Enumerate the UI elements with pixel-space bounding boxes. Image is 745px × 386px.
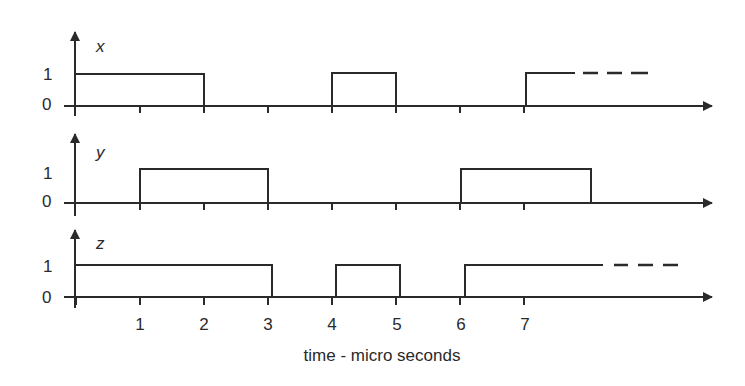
time-tick-labels: 1 2 3 4 5 6 7: [135, 315, 529, 334]
level-label-low: 0: [42, 288, 51, 307]
y-axis-ticks: [140, 203, 524, 210]
level-label-high: 1: [43, 164, 52, 183]
tick-label-3: 3: [263, 315, 272, 334]
tick-label-5: 5: [392, 315, 401, 334]
panel-y: y 1 0: [42, 134, 712, 216]
timing-diagram-svg: x 1 0 y 1 0: [0, 0, 745, 386]
x-axis-title: time - micro seconds: [304, 346, 461, 365]
waveform-z: [76, 265, 603, 297]
level-label-low: 0: [42, 95, 51, 114]
tick-label-6: 6: [456, 315, 465, 334]
waveform-y: [140, 169, 591, 203]
signal-label-y: y: [95, 143, 106, 162]
tick-label-7: 7: [520, 315, 529, 334]
z-axis-ticks: [76, 297, 524, 305]
level-label-high: 1: [43, 65, 52, 84]
panel-x: x 1 0: [42, 32, 712, 116]
x-axis-ticks: [140, 106, 524, 113]
signal-label-z: z: [95, 234, 105, 253]
timing-diagram: x 1 0 y 1 0: [0, 0, 745, 386]
level-label-low: 0: [42, 192, 51, 211]
tick-label-4: 4: [327, 315, 336, 334]
signal-label-x: x: [95, 37, 105, 56]
level-label-high: 1: [43, 257, 52, 276]
panel-z: z 1 0: [42, 230, 712, 308]
tick-label-1: 1: [135, 315, 144, 334]
tick-label-2: 2: [199, 315, 208, 334]
waveform-x: [76, 73, 575, 106]
